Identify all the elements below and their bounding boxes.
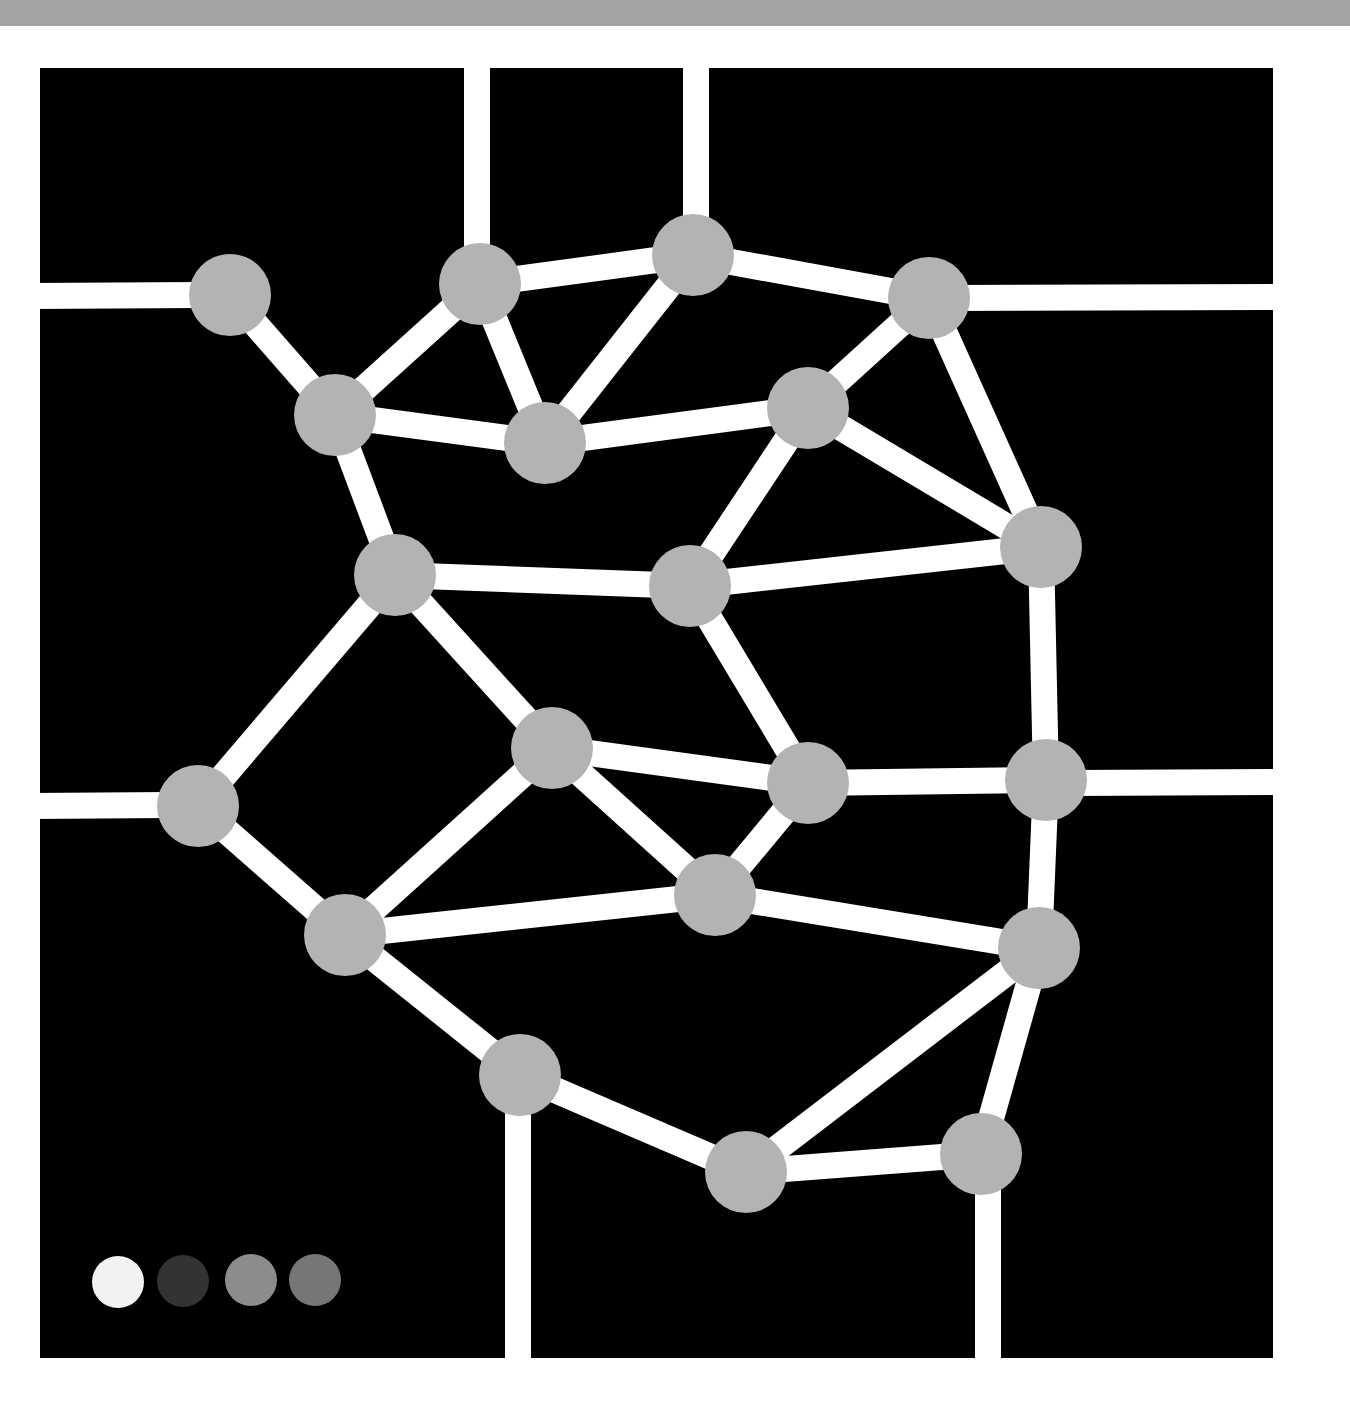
graph-node [998,907,1080,989]
network-diagram [0,0,1350,1428]
graph-node [674,854,756,936]
graph-node [504,402,586,484]
graph-node [652,214,734,296]
graph-node [1005,739,1087,821]
graph-node [157,765,239,847]
graph-node [649,545,731,627]
swatch-mid-gray [225,1254,277,1306]
grid-line [1070,782,1285,783]
swatch-dark-gray [157,1255,209,1307]
graph-node [705,1131,787,1213]
graph-node [189,254,271,336]
graph-node [439,243,521,325]
graph-node [294,374,376,456]
swatch-white [92,1256,144,1308]
graph-node [511,707,593,789]
graph-node [1000,506,1082,588]
graph-node [940,1113,1022,1195]
swatch-gray [289,1254,341,1306]
graph-edge [395,575,690,586]
graph-node [767,367,849,449]
graph-node [888,257,970,339]
graph-node [479,1034,561,1116]
grid-line [30,295,200,296]
graph-node [304,894,386,976]
grid-line [30,805,170,806]
graph-node [767,742,849,824]
graph-node [354,534,436,616]
grid-line [950,297,1285,298]
